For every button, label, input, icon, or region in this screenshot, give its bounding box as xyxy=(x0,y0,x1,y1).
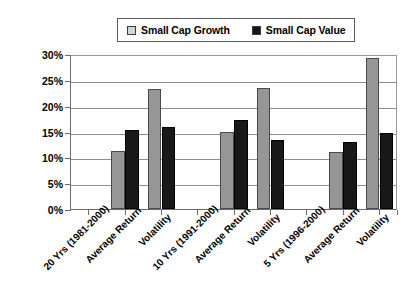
x-axis-label-wrapper: Volatility xyxy=(355,213,391,249)
legend-label-small-cap-value: Small Cap Value xyxy=(266,25,346,36)
gridline xyxy=(71,108,396,109)
y-axis-tick-mark xyxy=(65,210,71,211)
bar-value xyxy=(162,127,176,209)
legend-swatch-growth-icon xyxy=(127,26,136,35)
bar-growth xyxy=(111,151,125,209)
legend-swatch-value-icon xyxy=(252,26,261,35)
y-axis-tick-label: 20% xyxy=(23,101,63,112)
bar-growth xyxy=(366,58,380,209)
x-axis-tick-mark xyxy=(397,210,398,215)
bar-value xyxy=(234,120,248,209)
x-axis-tick-mark xyxy=(88,210,89,215)
legend-label-small-cap-growth: Small Cap Growth xyxy=(141,25,230,36)
bar-growth xyxy=(257,88,271,209)
x-axis-tick-label: Volatility xyxy=(137,213,173,249)
bar-value xyxy=(380,133,394,209)
legend-entry-small-cap-value: Small Cap Value xyxy=(252,25,346,36)
y-axis-tick-label: 5% xyxy=(23,179,63,190)
bar-growth xyxy=(329,152,343,209)
bar-growth xyxy=(220,132,234,209)
bar-value xyxy=(343,142,357,209)
gridline xyxy=(71,82,396,83)
bar-value xyxy=(125,130,139,209)
x-axis-tick-label: Volatility xyxy=(355,213,391,249)
bar-chart: Small Cap Growth Small Cap Value 0%5%10%… xyxy=(0,0,415,302)
bar-growth xyxy=(148,89,162,209)
y-axis-tick-label: 0% xyxy=(23,205,63,216)
y-axis-tick-label: 10% xyxy=(23,153,63,164)
bar-value xyxy=(271,140,285,209)
y-axis-tick-label: 25% xyxy=(23,76,63,87)
x-axis-label-wrapper: Volatility xyxy=(246,213,282,249)
y-axis-tick-label: 15% xyxy=(23,127,63,138)
x-axis-label-wrapper: Volatility xyxy=(137,213,173,249)
chart-legend: Small Cap Growth Small Cap Value xyxy=(117,18,355,42)
x-axis-tick-mark xyxy=(197,210,198,215)
legend-entry-small-cap-growth: Small Cap Growth xyxy=(127,25,230,36)
plot-area xyxy=(70,55,397,210)
x-axis-tick-label: Volatility xyxy=(246,213,282,249)
y-axis-tick-label: 30% xyxy=(23,50,63,61)
